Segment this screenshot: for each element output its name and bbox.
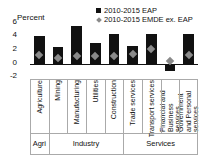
bar-group — [183, 22, 193, 78]
category-label-cell: Utilities — [86, 80, 105, 133]
category-label: Utilities — [92, 80, 100, 103]
y-tick-minus-2: -2 — [3, 72, 17, 80]
y-tick-2: 2 — [3, 45, 17, 53]
category-label: Manufacturing — [73, 80, 81, 124]
legend-square-icon — [96, 8, 101, 13]
category-label: Mining — [54, 80, 62, 101]
category-label: Trade services — [129, 80, 137, 126]
category-label-cell: Construction — [105, 80, 124, 133]
category-separator — [86, 80, 87, 133]
plot-area — [30, 22, 198, 78]
group-separator — [123, 132, 124, 154]
category-label-cell: Agriculture — [30, 80, 49, 133]
bar-group — [71, 22, 81, 78]
group-label: Services — [123, 132, 198, 154]
category-separator — [67, 80, 68, 133]
category-label-cell: Government and Personal services — [179, 80, 198, 133]
y-axis-title: Percent — [17, 14, 45, 22]
legend-item-eap: 2010-2015 EAP — [96, 6, 193, 15]
legend-label-eap: 2010-2015 EAP — [104, 6, 157, 15]
category-label-cell: Trade services — [123, 80, 142, 133]
group-separator — [49, 132, 50, 154]
chart-container: Percent 6 4 2 0 -2 2010-2015 EAP 2010-20… — [0, 0, 201, 161]
category-separator — [142, 80, 143, 133]
category-label: Construction — [110, 80, 118, 119]
bar-group — [109, 22, 119, 78]
category-separator — [49, 80, 50, 133]
bar-group — [165, 22, 175, 78]
category-separator — [123, 80, 124, 133]
category-label-cell: Transport services — [142, 80, 161, 133]
group-label: Industry — [49, 132, 124, 154]
category-label-cell: Manufacturing — [67, 80, 86, 133]
bar-group — [127, 22, 137, 78]
category-separator — [161, 80, 162, 133]
bar-group — [146, 22, 156, 78]
bar-group — [34, 22, 44, 78]
category-label: Transport services — [148, 80, 156, 137]
bar-group — [90, 22, 100, 78]
bar-group — [53, 22, 63, 78]
group-label: Agri — [30, 132, 49, 154]
category-label-cell: Mining — [49, 80, 68, 133]
y-tick-0: 0 — [3, 59, 17, 67]
category-separator — [105, 80, 106, 133]
group-label-band: AgriIndustryServices — [30, 132, 198, 155]
category-separator — [179, 80, 180, 133]
category-label: Agriculture — [36, 80, 44, 113]
category-label-band: AgricultureMiningManufacturingUtilitiesC… — [30, 79, 198, 134]
bar-eap — [34, 36, 44, 64]
y-tick-6: 6 — [3, 18, 17, 26]
y-tick-4: 4 — [3, 31, 17, 39]
